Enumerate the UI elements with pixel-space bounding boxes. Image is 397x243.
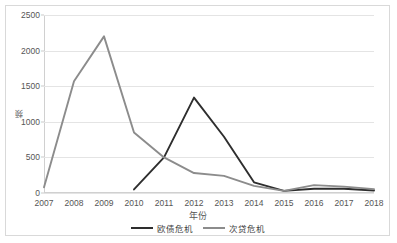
x-tick-label: 2007: [35, 198, 54, 208]
y-tick-label: 2000: [21, 46, 40, 56]
x-tick-label: 2010: [125, 198, 144, 208]
y-tick-label: 500: [26, 152, 40, 162]
y-tick-label: 2500: [21, 10, 40, 20]
legend-label: 次贷危机: [229, 222, 265, 234]
gridline: [44, 193, 374, 194]
x-tick-label: 2008: [65, 198, 84, 208]
legend-item[interactable]: 欧债危机: [131, 222, 193, 234]
plot-area: 05001000150020002500 2007200820092010201…: [44, 15, 374, 193]
x-tick-label: 2014: [245, 198, 264, 208]
y-tick-label: 1000: [21, 117, 40, 127]
x-axis-title: 年份: [6, 209, 389, 222]
series-line: [44, 36, 374, 191]
x-tick-label: 2011: [155, 198, 173, 208]
x-tick-label: 2018: [365, 198, 384, 208]
x-tick-label: 2017: [335, 198, 354, 208]
legend-item[interactable]: 次贷危机: [203, 222, 265, 234]
x-tick-label: 2013: [215, 198, 234, 208]
chart-legend: 欧债危机次贷危机: [6, 222, 389, 234]
y-tick-label: 1500: [21, 81, 40, 91]
legend-color-swatch: [131, 227, 153, 230]
x-tick-label: 2015: [275, 198, 294, 208]
y-tick-label: 0: [35, 188, 40, 198]
series-line: [134, 98, 374, 191]
legend-color-swatch: [203, 227, 225, 230]
x-tick-label: 2012: [185, 198, 204, 208]
legend-label: 欧债危机: [157, 222, 193, 234]
x-tick-label: 2009: [95, 198, 114, 208]
series-lines: [44, 15, 374, 193]
chart-container: 频 05001000150020002500 20072008200920102…: [5, 5, 390, 236]
x-tick-label: 2016: [305, 198, 324, 208]
